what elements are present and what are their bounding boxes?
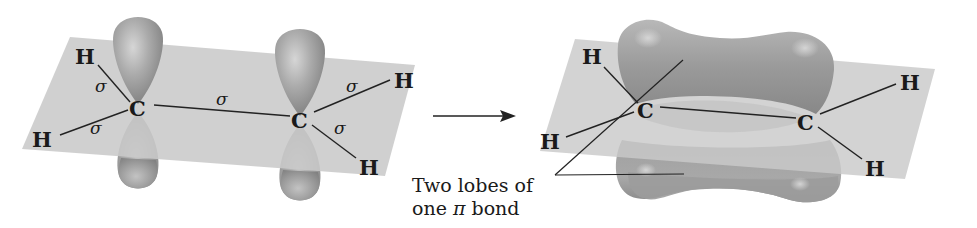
caption-suffix: bond xyxy=(465,197,519,219)
figure-canvas: H H C C H H σ σ σ σ σ xyxy=(0,0,977,228)
right-carbon-lower-lobe-front xyxy=(281,170,320,201)
caption-line-2: one π bond xyxy=(412,197,520,219)
left-atom-h-upper-right: H xyxy=(394,68,414,93)
right-atom-h-upper-left: H xyxy=(582,44,602,69)
left-panel-sp2-orbitals: H H C C H H σ σ σ σ σ xyxy=(22,17,415,201)
caption-line-1: Two lobes of xyxy=(412,174,535,196)
caption-prefix: one xyxy=(412,197,453,219)
right-atom-h-lower-right: H xyxy=(865,156,885,181)
left-atom-h-lower-right: H xyxy=(359,155,379,180)
sigma-label-lower-right: σ xyxy=(334,118,346,138)
sigma-label-upper-left: σ xyxy=(95,76,107,96)
right-atom-c-right: C xyxy=(797,110,814,135)
pi-lower-lobe-highlight-right xyxy=(790,177,810,191)
left-atom-c-left: C xyxy=(129,96,146,121)
left-atom-h-upper-left: H xyxy=(75,44,95,69)
sigma-label-c-c: σ xyxy=(216,89,228,109)
reaction-arrow xyxy=(433,110,516,122)
sigma-label-upper-right: σ xyxy=(346,76,358,96)
right-atom-h-lower-left: H xyxy=(540,129,560,154)
left-carbon-lower-lobe-front xyxy=(119,158,158,189)
left-atom-c-right: C xyxy=(291,108,308,133)
pi-upper-lobe-highlight-right xyxy=(791,38,819,58)
right-atom-c-left: C xyxy=(637,98,654,123)
pi-bond-formation-figure: H H C C H H σ σ σ σ σ xyxy=(0,0,977,228)
left-atom-h-lower-left: H xyxy=(32,127,52,152)
right-atom-h-upper-right: H xyxy=(900,70,920,95)
sigma-label-lower-left: σ xyxy=(90,118,102,138)
pi-symbol: π xyxy=(452,197,466,219)
pi-upper-lobe-highlight-left xyxy=(634,28,662,48)
